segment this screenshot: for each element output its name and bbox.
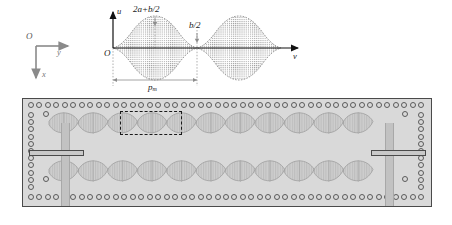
figure-root: O y x	[0, 0, 452, 225]
perforated-plate	[22, 98, 432, 207]
strip-row-top	[49, 112, 373, 134]
graph-origin-label: O	[104, 49, 111, 58]
u-axis-label: u	[117, 7, 121, 16]
strip-row-bottom	[49, 160, 373, 182]
right-vertical-bar	[385, 123, 394, 206]
right-horizontal-bar	[371, 150, 426, 156]
amplitude-graph: O u v 2a+b/2 b/2 pm	[0, 0, 452, 96]
unit-cell-selection-box	[120, 111, 182, 135]
left-vertical-bar	[61, 123, 70, 206]
amplitude-graph-svg	[0, 0, 452, 96]
node-leader	[195, 33, 199, 43]
left-horizontal-bar	[29, 150, 84, 156]
peak-amplitude-label: 2a+b/2	[133, 5, 160, 14]
strip-rows-svg	[23, 99, 431, 206]
v-axis-label: v	[293, 52, 297, 61]
period-label: pm	[148, 83, 157, 92]
node-amplitude-label: b/2	[189, 21, 201, 30]
period-label-subscript: m	[153, 86, 157, 92]
